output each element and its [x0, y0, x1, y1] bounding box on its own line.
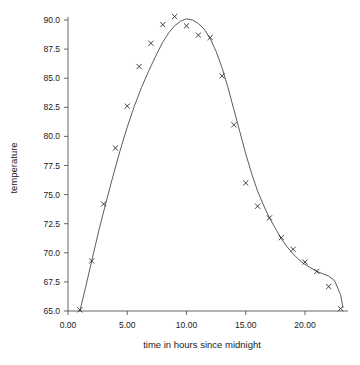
- y-tick-label: 75.0: [43, 190, 60, 200]
- x-tick-label: 0.00: [60, 320, 77, 330]
- data-point-marker: [255, 204, 260, 209]
- data-point-marker: [314, 269, 319, 274]
- y-tick-label: 90.0: [43, 15, 60, 25]
- x-axis-ticks: 0.005.0010.0015.0020.00: [60, 311, 316, 330]
- temperature-scatter-plot: 65.067.570.072.575.077.580.082.585.087.5…: [0, 0, 360, 365]
- data-point-marker: [184, 23, 189, 28]
- x-tick-label: 15.00: [235, 320, 257, 330]
- data-point-marker: [338, 306, 343, 311]
- data-point-marker: [291, 247, 296, 252]
- y-tick-label: 82.5: [43, 102, 60, 112]
- y-tick-label: 67.5: [43, 277, 60, 287]
- data-point-marker: [148, 41, 153, 46]
- x-tick-label: 5.00: [119, 320, 136, 330]
- data-point-marker: [137, 64, 142, 69]
- y-tick-label: 80.0: [43, 131, 60, 141]
- y-tick-label: 70.0: [43, 248, 60, 258]
- data-point-marker: [219, 73, 224, 78]
- data-point-marker: [196, 33, 201, 38]
- y-axis-ticks: 65.067.570.072.575.077.580.082.585.087.5…: [43, 15, 68, 316]
- data-point-marker: [113, 145, 118, 150]
- data-point-marker: [172, 14, 177, 19]
- y-tick-label: 77.5: [43, 161, 60, 171]
- data-point-marker: [231, 122, 236, 127]
- y-tick-label: 85.0: [43, 73, 60, 83]
- x-tick-label: 20.00: [294, 320, 316, 330]
- data-point-marker: [326, 284, 331, 289]
- x-axis-label: time in hours since midnight: [143, 339, 261, 350]
- data-point-markers: [77, 14, 343, 313]
- fit-curve-path: [80, 19, 343, 311]
- y-tick-label: 65.0: [43, 306, 60, 316]
- y-axis-label: temperature: [8, 142, 19, 193]
- y-tick-label: 87.5: [43, 44, 60, 54]
- data-point-marker: [267, 215, 272, 220]
- data-point-marker: [160, 22, 165, 27]
- data-point-marker: [243, 180, 248, 185]
- x-tick-label: 10.00: [176, 320, 198, 330]
- data-point-marker: [125, 104, 130, 109]
- axis-lines: [68, 17, 348, 311]
- fit-curve: [80, 19, 343, 311]
- chart-figure: 65.067.570.072.575.077.580.082.585.087.5…: [0, 0, 360, 365]
- data-point-marker: [77, 307, 82, 312]
- y-tick-label: 72.5: [43, 219, 60, 229]
